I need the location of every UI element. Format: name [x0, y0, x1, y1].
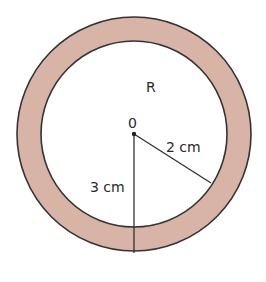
inner-radius-label: 2 cm: [166, 139, 201, 155]
annulus-diagram: R 0 2 cm 3 cm: [0, 0, 266, 282]
region-label: R: [146, 79, 156, 95]
center-point: [132, 132, 136, 136]
center-label: 0: [128, 115, 137, 131]
outer-radius-label: 3 cm: [90, 179, 125, 195]
